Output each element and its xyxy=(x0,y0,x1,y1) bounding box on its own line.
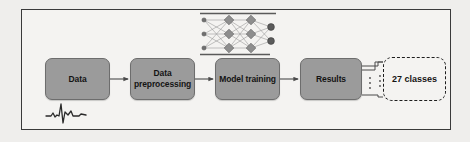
stage-data[interactable]: Data xyxy=(45,58,110,100)
stage-data-label: Data xyxy=(65,74,89,85)
output-classes-box[interactable]: 27 classes xyxy=(383,57,446,101)
neural-network-icon xyxy=(198,11,284,57)
ecg-waveform-icon xyxy=(45,101,87,125)
stage-model-training-label: Model training xyxy=(216,74,279,85)
figure-root: Data Data preprocessing Model training R… xyxy=(0,0,470,142)
output-classes-label: 27 classes xyxy=(392,74,437,84)
stage-data-preprocessing[interactable]: Data preprocessing xyxy=(130,58,195,100)
stage-results[interactable]: Results xyxy=(300,58,362,100)
stage-results-label: Results xyxy=(313,74,349,85)
stage-model-training[interactable]: Model training xyxy=(215,58,280,100)
stage-data-preprocessing-label: Data preprocessing xyxy=(131,68,194,89)
